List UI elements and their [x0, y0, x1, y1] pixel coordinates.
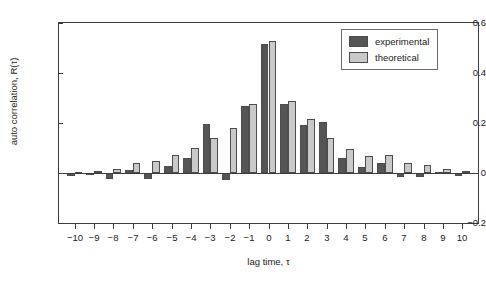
x-tick-mark	[210, 224, 211, 229]
x-tick-mark	[288, 224, 289, 229]
y-axis-title-text: auto correlation, R(τ)	[8, 58, 19, 146]
bar-experimental-0	[261, 44, 269, 174]
bar-theoretical--3	[210, 138, 218, 173]
x-tick-mark	[133, 224, 134, 229]
x-tick-mark	[346, 224, 347, 229]
x-tick-mark	[191, 224, 192, 229]
legend-swatch-icon	[349, 52, 368, 63]
x-tick-mark	[94, 224, 95, 229]
x-tick-mark	[269, 224, 270, 229]
x-axis-title-text: lag time, τ	[247, 256, 289, 267]
bar-experimental-4	[338, 158, 346, 173]
x-tick-mark	[230, 224, 231, 229]
autocorrelation-bar-chart: auto correlation, R(τ) 0.60.40.20−0.2 −1…	[0, 0, 486, 286]
x-axis-title: lag time, τ	[58, 256, 479, 267]
y-axis-title: auto correlation, R(τ)	[8, 27, 19, 177]
x-tick-mark	[365, 224, 366, 229]
x-tick-mark	[172, 224, 173, 229]
x-tick-mark	[152, 224, 153, 229]
legend-label: theoretical	[375, 52, 419, 63]
bar-theoretical-1	[288, 101, 296, 174]
x-tick-mark	[385, 224, 386, 229]
x-tick-label: 10	[447, 232, 477, 243]
bar-theoretical--5	[172, 155, 180, 173]
bar-experimental-6	[377, 163, 385, 174]
x-tick-mark	[113, 224, 114, 229]
bar-theoretical-8	[424, 165, 432, 174]
x-tick-mark	[443, 224, 444, 229]
bar-theoretical--4	[191, 148, 199, 173]
bar-theoretical-0	[269, 41, 277, 174]
x-tick-mark	[307, 224, 308, 229]
bar-experimental--5	[164, 166, 172, 173]
bar-theoretical-3	[327, 138, 335, 173]
x-tick-mark	[327, 224, 328, 229]
x-tick-mark	[462, 224, 463, 229]
bar-theoretical-5	[365, 156, 373, 173]
bar-theoretical--2	[230, 128, 238, 174]
legend-label: experimental	[375, 36, 429, 47]
bar-theoretical--7	[133, 163, 141, 174]
bar-experimental--3	[203, 124, 211, 173]
bar-experimental-2	[300, 125, 308, 173]
legend-item: theoretical	[349, 51, 429, 64]
zero-baseline	[59, 173, 478, 174]
x-tick-mark	[424, 224, 425, 229]
bar-experimental--2	[222, 173, 230, 180]
legend: experimentaltheoretical	[341, 29, 438, 70]
bar-theoretical-2	[307, 119, 315, 173]
bar-experimental-3	[319, 122, 327, 173]
bar-theoretical--6	[152, 161, 160, 174]
bar-theoretical-6	[385, 155, 393, 173]
x-tick-mark	[249, 224, 250, 229]
legend-item: experimental	[349, 35, 429, 48]
bar-experimental--1	[241, 106, 249, 173]
bar-experimental-1	[280, 104, 288, 174]
x-tick-mark	[75, 224, 76, 229]
bar-experimental--4	[183, 158, 191, 173]
bar-theoretical-7	[404, 163, 412, 174]
legend-swatch-icon	[349, 36, 368, 47]
x-tick-mark	[404, 224, 405, 229]
y-tick-mark	[58, 223, 63, 224]
bar-theoretical-4	[346, 149, 354, 174]
bar-theoretical--1	[249, 104, 257, 174]
